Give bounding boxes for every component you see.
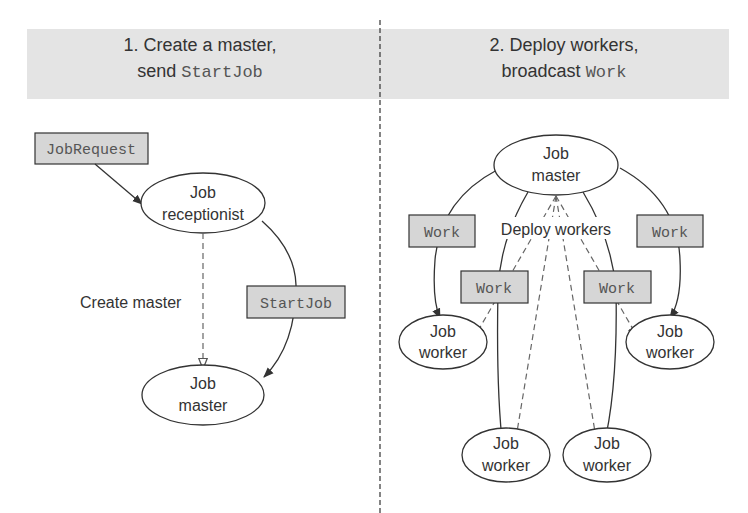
- svg-text:worker: worker: [418, 344, 468, 361]
- deploy-workers-label: Deploy workers: [501, 221, 611, 238]
- panel-1-title-line1: 1. Create a master,: [123, 35, 276, 55]
- svg-text:Work: Work: [599, 281, 635, 298]
- panel-2-title-line2: broadcast Work: [502, 61, 627, 82]
- svg-text:Job: Job: [594, 435, 620, 452]
- svg-text:worker: worker: [582, 457, 632, 474]
- svg-text:Job: Job: [430, 323, 456, 340]
- work-message-2: Work: [637, 215, 703, 247]
- svg-text:worker: worker: [481, 457, 531, 474]
- svg-text:worker: worker: [645, 344, 695, 361]
- panel-2-title-line1: 2. Deploy workers,: [489, 35, 638, 55]
- svg-text:master: master: [179, 397, 229, 414]
- svg-text:receptionist: receptionist: [162, 206, 244, 223]
- svg-text:Work: Work: [652, 225, 688, 242]
- svg-text:Job: Job: [543, 145, 569, 162]
- svg-text:Job: Job: [657, 323, 683, 340]
- actor-diagram: 1. Create a master, send StartJob 2. Dep…: [0, 0, 748, 513]
- work-message-1: Work: [409, 215, 475, 247]
- work-message-4: Work: [584, 271, 651, 303]
- job-receptionist-node: Job receptionist: [141, 173, 265, 233]
- svg-text:master: master: [532, 167, 582, 184]
- svg-text:Job: Job: [190, 184, 216, 201]
- svg-text:StartJob: StartJob: [260, 296, 332, 313]
- job-request-message: JobRequest: [35, 133, 148, 164]
- work-message-3: Work: [461, 271, 528, 303]
- job-master-node-right: Job master: [494, 135, 618, 195]
- job-worker-node-3: Job worker: [462, 428, 550, 482]
- svg-text:Job: Job: [190, 375, 216, 392]
- svg-text:JobRequest: JobRequest: [46, 142, 136, 159]
- job-worker-node-4: Job worker: [563, 428, 651, 482]
- svg-text:Job: Job: [493, 435, 519, 452]
- create-master-label: Create master: [80, 294, 182, 311]
- panel-1-title-line2: send StartJob: [137, 61, 263, 82]
- job-worker-node-2: Job worker: [626, 315, 714, 369]
- svg-text:Work: Work: [424, 225, 460, 242]
- job-worker-node-1: Job worker: [399, 315, 487, 369]
- svg-text:Work: Work: [476, 281, 512, 298]
- start-job-message: StartJob: [247, 286, 345, 318]
- job-master-node-left: Job master: [142, 365, 264, 425]
- job-request-arrow: [95, 164, 142, 204]
